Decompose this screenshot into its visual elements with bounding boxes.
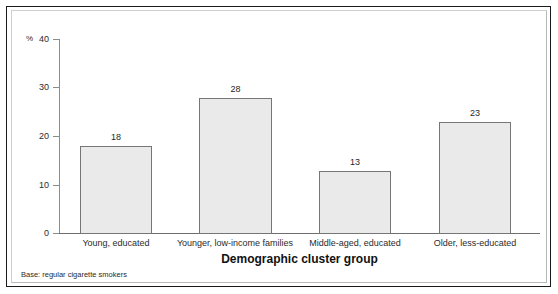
bar-value-middle-aged-educated: 13	[319, 158, 391, 167]
y-tick-10	[53, 185, 59, 186]
y-tick-label-30: 30	[25, 83, 49, 92]
plot-area: % 40 30 20 10 0 18 Young, educated 28 Yo…	[0, 0, 558, 294]
bar-middle-aged-educated[interactable]	[319, 171, 391, 234]
bar-young-educated[interactable]	[80, 146, 152, 234]
bar-value-younger-low-income-families: 28	[199, 85, 272, 94]
y-tick-20	[53, 136, 59, 137]
y-tick-label-20-wrap: 20	[21, 132, 49, 141]
bar-value-young-educated: 18	[80, 133, 152, 142]
y-tick-label-40-wrap: 40	[21, 35, 49, 44]
x-axis-title: Demographic cluster group	[59, 252, 540, 266]
x-category-label-older-less-educated: Older, less-educated	[395, 238, 555, 249]
y-tick-label-10: 10	[25, 181, 49, 190]
bar-older-less-educated[interactable]	[439, 122, 511, 234]
y-tick-label-20: 20	[25, 132, 49, 141]
y-tick-label-30-wrap: 30	[21, 83, 49, 92]
y-tick-label-10-wrap: 10	[21, 181, 49, 190]
y-tick-label-40: 40	[25, 35, 49, 44]
y-tick-0	[53, 233, 59, 234]
bar-value-older-less-educated: 23	[439, 109, 511, 118]
y-tick-label-0-wrap: 0	[21, 229, 49, 238]
y-axis-line	[59, 39, 60, 234]
y-tick-40	[53, 39, 59, 40]
y-tick-30	[53, 87, 59, 88]
base-footnote: Base: regular cigarette smokers	[21, 270, 127, 279]
chart-figure: % 40 30 20 10 0 18 Young, educated 28 Yo…	[0, 0, 558, 294]
bar-younger-low-income-families[interactable]	[199, 98, 272, 234]
y-tick-label-0: 0	[25, 229, 49, 238]
